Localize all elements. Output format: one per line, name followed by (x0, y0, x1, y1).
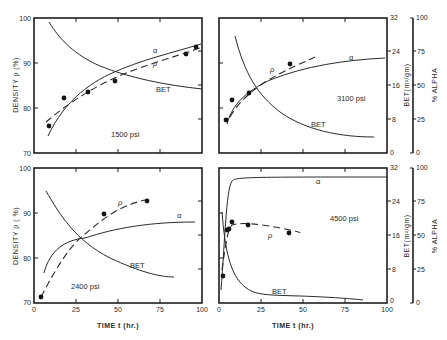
alpha-label: α (153, 46, 158, 55)
rho-data-point (246, 223, 251, 228)
y-tick-70: 70 (23, 150, 31, 157)
bet-label: BET (156, 85, 171, 94)
bet-tick-0: 0 (390, 149, 394, 156)
density-axis-label: DENSITY ρ ( %) (12, 207, 20, 265)
pressure-label: 1500 psi (111, 130, 140, 139)
plot-frame (219, 168, 387, 303)
alpha-label: α (349, 53, 354, 62)
rho-data-point (184, 52, 189, 57)
bet-curve (46, 191, 174, 277)
rho-data-point (145, 199, 150, 204)
alpha-curve (221, 177, 387, 290)
bet-curve (235, 36, 374, 137)
alpha-axis-label: % ALPHA (431, 68, 438, 102)
rho-data-point (224, 118, 229, 123)
bet-tick-32: 32 (390, 164, 398, 171)
y-tick-90: 90 (23, 60, 31, 67)
bet-tick-8: 8 (392, 116, 396, 123)
x-tick-75: 75 (341, 306, 349, 313)
bet-tick-24: 24 (392, 48, 400, 55)
rho-fit-curve (222, 224, 300, 270)
rho-data-point (194, 45, 199, 50)
x-tick-100: 100 (381, 306, 393, 313)
bet-curve (49, 22, 202, 89)
rho-data-point (86, 90, 91, 95)
y-tick-80: 80 (23, 105, 31, 112)
bet-label: BET (311, 120, 326, 129)
figure: 100 90 80 70 DENSITY ρ (%) α ρ BET 1500 … (0, 0, 447, 340)
rho-data-point (62, 96, 67, 101)
bet-axis-label: BET(m²/gm) (403, 214, 411, 257)
bet-label: BET (272, 287, 287, 296)
alpha-label: α (316, 177, 321, 186)
x-tick-50: 50 (299, 306, 307, 313)
alpha-tick-100: 100 (416, 164, 428, 171)
rho-data-point (230, 98, 235, 103)
alpha-curve (48, 44, 201, 136)
alpha-tick-0: 0 (416, 149, 420, 156)
bet-tick-16: 16 (392, 82, 400, 89)
alpha-tick-50: 50 (417, 232, 425, 239)
pressure-label: 3100 psi (337, 94, 366, 103)
rho-fit-curve (46, 48, 200, 122)
alpha-tick-75: 75 (417, 48, 425, 55)
time-axis-label: TIME t (hr.) (272, 322, 314, 330)
rho-data-point (221, 274, 226, 279)
x-tick-0: 0 (32, 306, 36, 313)
y-tick-90: 90 (23, 210, 31, 217)
x-tick-25: 25 (72, 306, 80, 313)
x-tick-0: 0 (217, 306, 221, 313)
bet-tick-32: 32 (390, 14, 398, 21)
alpha-tick-50: 50 (417, 82, 425, 89)
rho-data-point (113, 79, 118, 84)
bet-curve (222, 212, 363, 300)
rho-data-point (247, 91, 252, 96)
pressure-label: 4500 psi (330, 214, 359, 223)
y-tick-100: 100 (19, 165, 31, 172)
alpha-tick-0: 0 (416, 299, 420, 306)
rho-data-point (230, 220, 235, 225)
density-axis-label: DENSITY ρ (%) (12, 57, 20, 112)
x-tick-25: 25 (257, 306, 265, 313)
alpha-curve (227, 58, 385, 124)
rho-data-point (47, 124, 52, 129)
panel-1500psi: 100 90 80 70 DENSITY ρ (%) α ρ BET 1500 … (12, 15, 202, 157)
time-axis-label: TIME t (hr.) (97, 322, 139, 330)
rho-data-point (39, 295, 44, 300)
y-tick-80: 80 (23, 255, 31, 262)
bet-tick-8: 8 (392, 266, 396, 273)
y-tick-70: 70 (23, 299, 31, 306)
alpha-tick-75: 75 (417, 198, 425, 205)
rho-label: ρ (267, 231, 273, 240)
x-tick-75: 75 (156, 306, 164, 313)
rho-data-point (102, 212, 107, 217)
alpha-curve (44, 222, 195, 273)
alpha-tick-25: 25 (417, 266, 425, 273)
x-tick-100: 100 (196, 306, 208, 313)
x-tick-50: 50 (114, 306, 122, 313)
rho-label: ρ (117, 198, 123, 207)
alpha-axis-label: % ALPHA (431, 219, 438, 253)
rho-data-point (227, 227, 232, 232)
alpha-label: α (177, 211, 182, 220)
bet-axis-label: BET(m²/gm) (403, 63, 411, 106)
bet-tick-24: 24 (392, 198, 400, 205)
plot-frame (219, 18, 387, 153)
panel-3100psi: 32 24 16 8 0 BET(m²/gm) 100 75 50 25 0 %… (219, 14, 438, 156)
rho-data-point (287, 231, 292, 236)
pressure-label: 2400 psi (71, 282, 100, 291)
panel-4500psi: 0 25 50 75 100 TIME t (hr.) 32 24 16 8 0… (217, 164, 438, 330)
rho-data-point (288, 62, 293, 67)
bet-tick-0: 0 (390, 297, 394, 304)
bet-label: BET (130, 261, 145, 270)
bet-tick-16: 16 (392, 232, 400, 239)
plot-frame (34, 168, 202, 303)
rho-label: ρ (269, 65, 275, 74)
rho-label: ρ (152, 59, 158, 68)
alpha-tick-100: 100 (416, 14, 428, 21)
y-tick-100: 100 (19, 15, 31, 22)
panel-2400psi: 100 90 80 70 0 25 50 75 100 TIME t (hr.)… (12, 165, 208, 330)
alpha-tick-25: 25 (417, 116, 425, 123)
